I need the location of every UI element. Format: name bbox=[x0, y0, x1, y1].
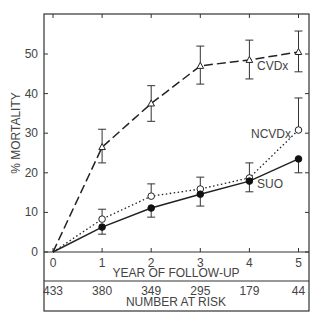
filled-circle-marker bbox=[246, 178, 253, 185]
filled-circle-marker bbox=[295, 156, 302, 163]
risk-count: 44 bbox=[292, 284, 306, 298]
filled-circle-marker bbox=[99, 224, 106, 231]
y-tick-label: 0 bbox=[31, 245, 38, 259]
x-tick-label: 1 bbox=[99, 256, 106, 270]
series-ncvdx bbox=[53, 98, 303, 252]
x-axis: 012345 bbox=[50, 14, 303, 270]
series-line bbox=[53, 52, 299, 252]
y-tick-label: 20 bbox=[25, 166, 39, 180]
risk-count: 380 bbox=[92, 284, 112, 298]
open-circle-marker bbox=[99, 216, 106, 223]
filled-circle-marker bbox=[197, 191, 204, 198]
x-tick-label: 4 bbox=[246, 256, 253, 270]
y-tick-label: 10 bbox=[25, 205, 39, 219]
series-label-cvdx: CVDx bbox=[257, 59, 288, 73]
y-tick-label: 40 bbox=[25, 87, 39, 101]
series-label-suo: SUO bbox=[257, 177, 283, 191]
y-tick-label: 50 bbox=[25, 47, 39, 61]
x-tick-label: 5 bbox=[295, 256, 302, 270]
mortality-chart: 01020304050 012345 CVDxNCVDxSUO 43338034… bbox=[0, 0, 321, 326]
y-axis-label: % MORTALITY bbox=[9, 92, 23, 174]
triangle-marker bbox=[295, 49, 302, 55]
number-at-risk-label: NUMBER AT RISK bbox=[126, 295, 226, 309]
risk-count: 433 bbox=[43, 284, 63, 298]
series-label-ncvdx: NCVDx bbox=[251, 127, 291, 141]
data-series: CVDxNCVDxSUO bbox=[53, 31, 303, 252]
series-suo bbox=[53, 156, 303, 252]
y-axis: 01020304050 bbox=[25, 47, 309, 259]
open-circle-marker bbox=[295, 127, 302, 134]
series-line bbox=[53, 159, 299, 252]
risk-count: 179 bbox=[239, 284, 259, 298]
x-tick-label: 0 bbox=[50, 256, 57, 270]
x-axis-label: YEAR OF FOLLOW-UP bbox=[112, 266, 239, 280]
filled-circle-marker bbox=[148, 205, 155, 212]
open-circle-marker bbox=[148, 193, 155, 200]
y-tick-label: 30 bbox=[25, 126, 39, 140]
triangle-marker bbox=[197, 62, 204, 68]
